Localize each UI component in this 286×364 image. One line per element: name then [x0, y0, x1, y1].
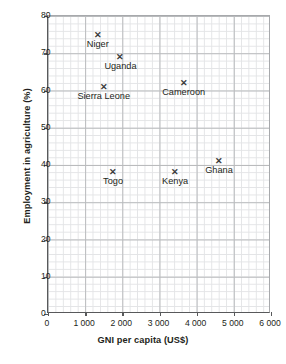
x-tick-3000 [160, 312, 161, 316]
x-tick-label-5000: 5 000 [222, 318, 244, 328]
x-tick-label-3000: 3 000 [148, 318, 170, 328]
data-point-label-niger: Niger [87, 40, 109, 49]
x-axis-title: GNI per capita (US$) [0, 335, 286, 345]
x-tick-1000 [85, 312, 86, 316]
x-tick-label-0: 0 [45, 318, 50, 328]
scatter-chart-figure: ✕Niger✕Uganda✕Sierra Leone✕Cameroon✕Togo… [0, 0, 286, 364]
data-point-label-ghana: Ghana [205, 166, 233, 175]
x-tick-label-1000: 1 000 [73, 318, 95, 328]
x-tick-label-6000: 6 000 [259, 318, 281, 328]
x-tick-4000 [197, 312, 198, 316]
x-tick-0 [48, 312, 49, 316]
data-point-label-uganda: Uganda [104, 62, 136, 71]
x-tick-6000 [271, 312, 272, 316]
x-tick-label-2000: 2 000 [111, 318, 133, 328]
x-tick-label-4000: 4 000 [185, 318, 207, 328]
plot-area: ✕Niger✕Uganda✕Sierra Leone✕Cameroon✕Togo… [47, 15, 270, 313]
data-point-label-togo: Togo [103, 177, 123, 186]
data-point-label-kenya: Kenya [162, 177, 188, 186]
x-tick-5000 [234, 312, 235, 316]
y-axis-title: Employment in agriculture (%) [22, 36, 32, 276]
data-point-label-sierra-leone: Sierra Leone [77, 92, 130, 101]
x-tick-2000 [122, 312, 123, 316]
grid-lines [48, 16, 269, 312]
data-point-label-cameroon: Cameroon [162, 88, 205, 97]
